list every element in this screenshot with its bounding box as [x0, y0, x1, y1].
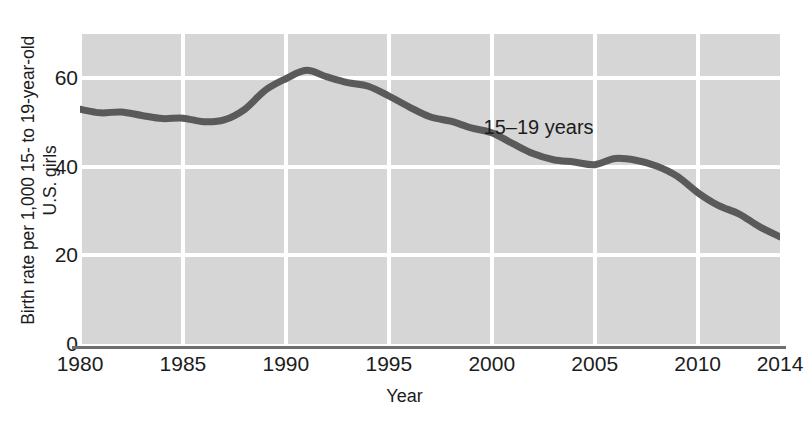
y-tick-label-60: 60	[34, 67, 78, 88]
x-tick-label-2000: 2000	[468, 352, 515, 376]
y-tick-label-20: 20	[34, 244, 78, 265]
x-axis-tick-labels: 19801985199019952000200520102014	[0, 352, 809, 382]
y-tick-label-40: 40	[34, 156, 78, 177]
x-axis-line	[72, 346, 786, 349]
y-tick-label-0: 0	[34, 333, 78, 354]
chart-figure: Birth rate per 1,000 15- to 19-year-old …	[0, 0, 809, 424]
x-axis-title: Year	[0, 386, 809, 407]
x-tick-label-1980: 1980	[57, 352, 104, 376]
plot-area: 15–19 years	[80, 34, 780, 344]
x-tick-label-2010: 2010	[674, 352, 721, 376]
series-annotation-label: 15–19 years	[484, 116, 594, 139]
x-tick-label-1990: 1990	[263, 352, 310, 376]
x-tick-label-2014: 2014	[757, 352, 804, 376]
x-tick-label-1995: 1995	[365, 352, 412, 376]
x-tick-label-2005: 2005	[571, 352, 618, 376]
series-line-15-19-years	[80, 34, 780, 344]
series-path	[80, 70, 780, 237]
x-tick-label-1985: 1985	[160, 352, 207, 376]
